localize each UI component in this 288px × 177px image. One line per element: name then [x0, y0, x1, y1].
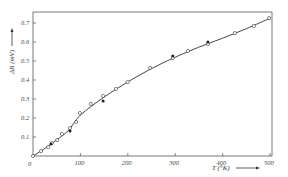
origin-label: 0: [28, 160, 32, 167]
y-tick-label: 0.3: [21, 95, 30, 102]
open-circle-marker: [39, 149, 42, 152]
x-tick-label: 200: [122, 159, 133, 166]
y-tick-label: 0.1: [21, 133, 29, 140]
y-axis-title: ΔB (mV): [8, 28, 16, 75]
open-circle-marker: [148, 66, 151, 69]
filled-circle-marker: [171, 55, 174, 58]
filled-circle-marker: [68, 129, 71, 132]
open-circle-marker: [56, 138, 59, 141]
y-tick-label: 0.2: [21, 114, 30, 121]
open-circle-marker: [78, 111, 81, 114]
open-circle-marker: [186, 49, 189, 52]
fit-curve: [33, 18, 270, 156]
y-tick-label: 0.7: [21, 19, 30, 26]
open-circle-marker: [102, 94, 105, 97]
axis-ticks: 1002003004005000.10.20.30.40.50.60.7: [21, 19, 275, 166]
open-circle-marker: [47, 145, 50, 148]
y-arrowhead-icon: [11, 28, 14, 32]
y-axis-title-text: ΔB (mV): [8, 49, 16, 75]
filled-circle-marker: [206, 41, 209, 44]
y-tick-label: 0.6: [21, 38, 30, 45]
y-tick-label: 0.4: [21, 76, 30, 83]
y-tick-label: 0.5: [21, 57, 30, 64]
x-arrowhead-icon: [256, 167, 260, 170]
open-circle-marker: [68, 126, 71, 129]
open-circle-marker: [60, 132, 63, 135]
x-tick-label: 100: [74, 159, 85, 166]
filled-circle-marker: [102, 100, 105, 103]
data-markers: [31, 16, 270, 157]
x-axis-title: T (°K): [212, 164, 260, 172]
chart: 1002003004005000.10.20.30.40.50.60.7 0 T…: [0, 0, 288, 177]
filled-circle-marker: [50, 143, 53, 146]
x-tick-label: 300: [168, 159, 180, 166]
open-circle-marker: [114, 87, 117, 90]
open-circle-marker: [267, 16, 270, 19]
open-circle-marker: [126, 80, 129, 83]
open-circle-marker: [252, 24, 255, 27]
x-axis-title-text: T (°K): [212, 164, 230, 172]
open-circle-marker: [89, 102, 92, 105]
fit-curve-path: [33, 18, 270, 156]
x-tick-label: 500: [264, 159, 275, 166]
open-circle-marker: [233, 31, 236, 34]
open-circle-marker: [31, 154, 34, 157]
open-circle-marker: [75, 120, 78, 123]
